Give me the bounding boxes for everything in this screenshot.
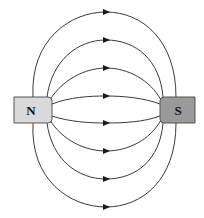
north-magnet: N [14,97,52,123]
south-label: S [174,103,181,118]
arrow-icon [103,148,110,154]
arrow-icon [103,93,110,99]
south-magnet: S [160,97,195,123]
magnetic-field-diagram: N S [0,0,204,218]
field-arrows [103,9,110,210]
field-line [33,12,176,97]
arrow-icon [103,120,110,126]
arrow-icon [103,9,110,15]
arrow-icon [103,37,110,43]
north-label: N [26,103,36,118]
arrow-icon [103,204,110,210]
arrow-icon [103,176,110,182]
arrow-icon [103,65,110,71]
field-line [33,123,176,207]
